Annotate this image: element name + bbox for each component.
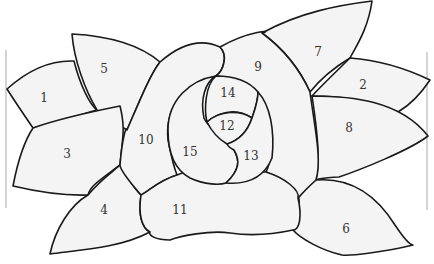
label-10: 10 <box>138 133 153 147</box>
label-7: 7 <box>314 45 322 59</box>
label-6: 6 <box>342 222 350 236</box>
region-8 <box>312 96 428 180</box>
label-3: 3 <box>63 147 71 161</box>
rose-line-art <box>0 0 434 264</box>
label-8: 8 <box>345 121 353 135</box>
label-5: 5 <box>100 62 108 76</box>
label-2: 2 <box>359 78 367 92</box>
label-14: 14 <box>220 86 235 100</box>
label-12: 12 <box>219 119 234 133</box>
rose-pattern-diagram: 1 2 3 4 5 6 7 8 9 10 11 12 13 14 15 <box>0 0 434 264</box>
label-9: 9 <box>254 60 262 74</box>
label-15: 15 <box>182 145 197 159</box>
label-4: 4 <box>100 203 108 217</box>
label-13: 13 <box>243 149 258 163</box>
label-11: 11 <box>172 203 187 217</box>
region-6 <box>293 180 413 255</box>
label-1: 1 <box>40 91 48 105</box>
